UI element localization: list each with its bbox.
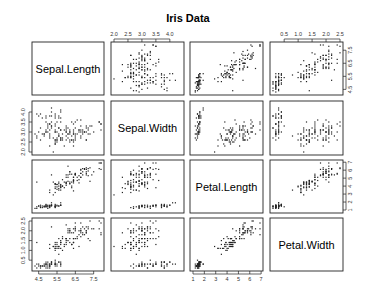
data-point	[147, 54, 148, 55]
data-point	[233, 64, 234, 65]
data-point	[278, 121, 279, 122]
data-point	[60, 244, 61, 245]
data-point	[153, 81, 154, 82]
diagonal-label-panel: Petal.Width	[270, 218, 343, 271]
data-point	[300, 188, 301, 189]
data-point	[161, 207, 162, 208]
data-point	[66, 177, 67, 178]
data-point	[275, 133, 276, 134]
data-point	[155, 205, 156, 206]
data-point	[130, 182, 131, 183]
data-point	[78, 179, 79, 180]
data-point	[141, 56, 142, 57]
data-point	[164, 262, 165, 263]
data-point	[303, 137, 304, 138]
data-point	[56, 186, 57, 187]
data-point	[147, 69, 148, 70]
data-point	[44, 135, 45, 136]
data-point	[275, 86, 276, 87]
data-point	[139, 248, 140, 249]
data-point	[221, 74, 222, 75]
data-point	[259, 46, 260, 47]
data-point	[320, 131, 321, 132]
tick-label: 2.5	[20, 138, 26, 146]
data-point	[133, 248, 134, 249]
data-point	[161, 73, 162, 74]
data-point	[130, 184, 131, 185]
data-point	[229, 73, 230, 74]
data-point	[38, 131, 39, 132]
data-point	[242, 133, 243, 134]
data-point	[245, 125, 246, 126]
data-point	[141, 264, 142, 265]
data-point	[122, 187, 123, 188]
tick-label: 5	[347, 177, 353, 180]
data-point	[58, 182, 59, 183]
data-point	[36, 264, 37, 265]
data-point	[69, 171, 70, 172]
data-point	[198, 76, 199, 77]
data-point	[239, 59, 240, 60]
data-point	[323, 167, 324, 168]
data-point	[247, 131, 248, 132]
data-point	[150, 55, 151, 56]
data-point	[150, 77, 151, 78]
data-point	[325, 135, 326, 136]
data-point	[300, 73, 301, 74]
data-point	[153, 64, 154, 65]
data-point	[252, 54, 253, 55]
data-point	[66, 224, 67, 225]
data-point	[224, 73, 225, 74]
data-point	[56, 248, 57, 249]
data-point	[306, 182, 307, 183]
data-point	[153, 265, 154, 266]
data-point	[67, 166, 68, 167]
data-point	[303, 77, 304, 78]
data-point	[84, 228, 85, 229]
data-point	[241, 54, 242, 55]
data-point	[80, 230, 81, 231]
scatter-panel	[111, 160, 184, 213]
data-point	[275, 81, 276, 82]
data-point	[56, 121, 57, 122]
data-point	[303, 187, 304, 188]
data-point	[323, 67, 324, 68]
data-point	[155, 206, 156, 207]
data-point	[122, 64, 123, 65]
data-point	[309, 129, 310, 130]
data-point	[40, 267, 41, 268]
data-point	[64, 187, 65, 188]
data-point	[139, 181, 140, 182]
data-point	[197, 264, 198, 265]
data-point	[139, 264, 140, 265]
top-axis: 2.02.53.03.54.0	[110, 31, 173, 42]
data-point	[77, 238, 78, 239]
data-point	[153, 82, 154, 83]
data-point	[241, 60, 242, 61]
data-point	[195, 264, 196, 265]
data-point	[60, 248, 61, 249]
data-point	[303, 151, 304, 152]
data-point	[166, 205, 167, 206]
data-point	[320, 169, 321, 170]
data-point	[328, 141, 329, 142]
data-point	[100, 162, 101, 163]
data-point	[221, 240, 222, 241]
data-point	[242, 224, 243, 225]
data-point	[242, 69, 243, 70]
scatter-panel	[32, 101, 104, 155]
panel-frame	[190, 42, 263, 95]
data-point	[53, 151, 54, 152]
data-point	[141, 228, 142, 229]
data-point	[250, 59, 251, 60]
data-point	[312, 73, 313, 74]
data-point	[127, 76, 128, 77]
data-point	[275, 76, 276, 77]
data-point	[339, 168, 340, 169]
data-point	[73, 248, 74, 249]
data-point	[55, 206, 56, 207]
data-point	[306, 135, 307, 136]
data-point	[223, 74, 224, 75]
data-point	[306, 69, 307, 70]
data-point	[130, 69, 131, 70]
